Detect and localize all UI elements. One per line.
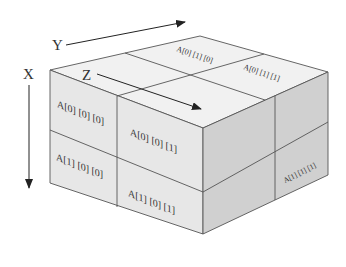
x-axis-label: X xyxy=(23,66,34,82)
3d-array-diagram: Y X Z A[0] [0] [0] A[0] [0] [1] A[1] [0]… xyxy=(0,0,346,267)
z-axis-label: Z xyxy=(82,67,91,83)
y-axis-arrow xyxy=(66,22,185,45)
y-axis-label: Y xyxy=(52,37,63,53)
